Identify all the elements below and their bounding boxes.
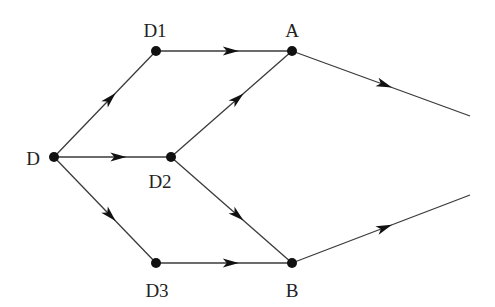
- node-label-A: A: [285, 21, 299, 40]
- node-label-B: B: [286, 281, 299, 300]
- edge-D-D3: [54, 157, 156, 263]
- node-label-D: D: [26, 149, 40, 168]
- edges-group: [54, 47, 470, 268]
- node-D2: [166, 152, 176, 162]
- node-D: [49, 152, 59, 162]
- node-label-D1: D1: [143, 21, 166, 40]
- node-D1: [151, 46, 161, 56]
- arrow-icon: [375, 221, 393, 235]
- node-A: [287, 46, 297, 56]
- node-label-D2: D2: [148, 172, 171, 191]
- graph-diagram: DD1D2D3AB: [0, 0, 495, 307]
- node-label-D3: D3: [145, 281, 168, 300]
- edge-D2-A: [171, 51, 292, 157]
- arrow-icon: [376, 78, 394, 92]
- edge-D-D1: [54, 51, 156, 157]
- edge-D2-B: [171, 157, 292, 263]
- graph-svg: [0, 0, 495, 307]
- node-B: [287, 258, 297, 268]
- node-D3: [151, 258, 161, 268]
